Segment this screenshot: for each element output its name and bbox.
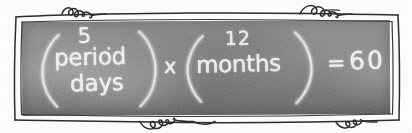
curly-loops-bottom-center-icon: [140, 118, 215, 129]
curly-loops-top-right-icon: [300, 5, 352, 17]
chalkboard-panel: 5 . period days x 12 months = 60: [22, 20, 391, 116]
curly-loops-bottom-right-icon: [336, 120, 377, 128]
curly-loops-top-left-icon: [62, 8, 106, 18]
chalkboard-surface: [22, 20, 391, 116]
chalkboard-illustration: 5 . period days x 12 months = 60: [0, 0, 412, 133]
